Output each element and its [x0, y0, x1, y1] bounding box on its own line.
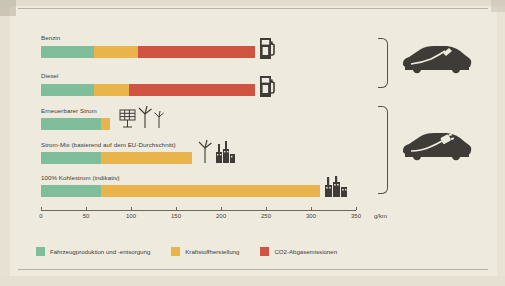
legend-item-fuel-production: Kraftstoffherstellung: [171, 247, 239, 256]
fuel-pump-icon: [259, 36, 277, 60]
factory-icon: [324, 176, 350, 198]
car-fuel-nozzle-icon: [399, 43, 473, 75]
stacked-bar-diesel: [41, 84, 255, 96]
bar-row-label-kohlestrom: 100% Kohlestrom (indikativ): [41, 174, 120, 181]
stacked-bar-strom-mix: [41, 152, 192, 164]
bar-row-label-diesel: Diesel: [41, 72, 59, 79]
legend-swatch-yellow: [171, 247, 180, 256]
bar-segment-production: [41, 46, 94, 58]
chart-legend: Fahrzeugproduktion und -entsorgung Kraft…: [36, 247, 358, 256]
legend-label-production: Fahrzeugproduktion und -entsorgung: [50, 248, 150, 255]
axis-tick-350: [356, 207, 357, 210]
bar-row-label-erneuerbarer-strom: Erneuerbarer Strom: [41, 107, 97, 114]
fuel-pump-icon: [259, 74, 277, 98]
bar-segment-exhaust: [138, 46, 255, 58]
bar-segment-production: [41, 118, 101, 130]
axis-tick-label-350: 350: [344, 213, 368, 219]
bar-segment-fuel-production: [94, 84, 129, 96]
axis-tick-200: [221, 207, 222, 210]
bar-segment-exhaust: [129, 84, 256, 96]
bar-segment-production: [41, 84, 94, 96]
bar-row-label-benzin: Benzin: [41, 34, 60, 41]
car-electric-plug-icon: [399, 130, 473, 162]
bar-segment-fuel-production: [101, 185, 320, 197]
bar-segment-production: [41, 152, 101, 164]
axis-tick-150: [176, 207, 177, 210]
legend-label-fuel-production: Kraftstoffherstellung: [185, 248, 239, 255]
legend-swatch-green: [36, 247, 45, 256]
axis-tick-label-250: 250: [254, 213, 278, 219]
axis-tick-label-0: 0: [29, 213, 53, 219]
stacked-bar-kohlestrom: [41, 185, 320, 197]
wind-factory-icon: [196, 138, 238, 166]
chart-plot-area: Benzin Diesel: [0, 0, 505, 286]
legend-label-exhaust: CO2-Abgasemissionen: [274, 248, 337, 255]
bar-segment-fuel-production: [101, 152, 192, 164]
bar-segment-fuel-production: [94, 46, 138, 58]
axis-tick-label-50: 50: [74, 213, 98, 219]
legend-swatch-red: [260, 247, 269, 256]
axis-tick-label-150: 150: [164, 213, 188, 219]
stacked-bar-erneuerbarer-strom: [41, 118, 110, 130]
axis-tick-0: [41, 207, 42, 210]
chart-page: Benzin Diesel: [0, 0, 505, 286]
axis-tick-300: [311, 207, 312, 210]
axis-tick-50: [86, 207, 87, 210]
solar-wind-icon: [118, 105, 166, 131]
axis-line: [41, 210, 356, 211]
legend-item-production: Fahrzeugproduktion und -entsorgung: [36, 247, 150, 256]
group-bracket-combustion: [378, 38, 388, 88]
bar-segment-fuel-production: [101, 118, 110, 130]
axis-tick-250: [266, 207, 267, 210]
axis-tick-label-300: 300: [299, 213, 323, 219]
axis-tick-label-100: 100: [119, 213, 143, 219]
axis-tick-100: [131, 207, 132, 210]
group-bracket-electric: [378, 106, 388, 194]
axis-tick-label-200: 200: [209, 213, 233, 219]
bar-row-label-strom-mix: Strom-Mix (basierend auf dem EU-Durchsch…: [41, 141, 176, 148]
bar-segment-production: [41, 185, 101, 197]
stacked-bar-benzin: [41, 46, 255, 58]
legend-item-exhaust: CO2-Abgasemissionen: [260, 247, 337, 256]
axis-unit-label: g/km: [374, 213, 387, 219]
